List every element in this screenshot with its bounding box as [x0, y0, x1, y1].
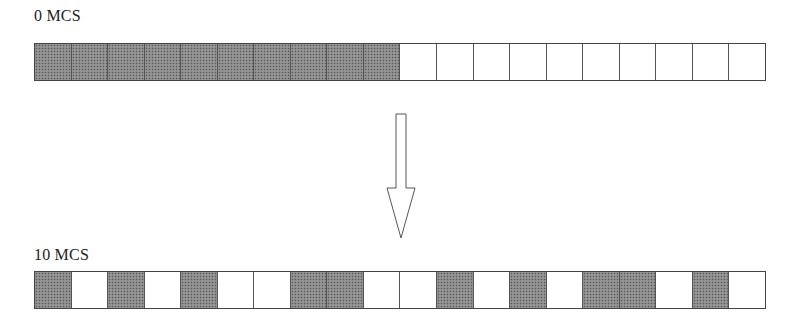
lattice-cell-filled: [364, 44, 401, 80]
lattice-cell-empty: [729, 44, 765, 80]
lattice-cell-empty: [254, 272, 291, 308]
lattice-cell-filled: [218, 44, 255, 80]
lattice-cell-filled: [145, 44, 182, 80]
lattice-cell-filled: [181, 272, 218, 308]
lattice-cell-filled: [254, 44, 291, 80]
lattice-cell-filled: [72, 44, 109, 80]
lattice-cell-empty: [656, 44, 693, 80]
lattice-cell-filled: [327, 272, 364, 308]
lattice-cell-filled: [35, 272, 72, 308]
top-label: 0 MCS: [34, 7, 81, 25]
bottom-label: 10 MCS: [34, 246, 89, 264]
lattice-cell-empty: [400, 44, 437, 80]
lattice-cell-empty: [583, 44, 620, 80]
lattice-cell-filled: [108, 44, 145, 80]
lattice-cell-filled: [620, 272, 657, 308]
lattice-cell-empty: [364, 272, 401, 308]
bottom-lattice-row: [34, 271, 766, 309]
lattice-cell-empty: [693, 44, 730, 80]
top-lattice-row: [34, 43, 766, 81]
lattice-cell-filled: [327, 44, 364, 80]
lattice-cell-filled: [693, 272, 730, 308]
lattice-cell-filled: [583, 272, 620, 308]
lattice-cell-empty: [145, 272, 182, 308]
lattice-cell-filled: [291, 272, 328, 308]
lattice-cell-empty: [400, 272, 437, 308]
lattice-cell-filled: [35, 44, 72, 80]
down-arrow-icon: [380, 108, 424, 242]
lattice-cell-empty: [510, 44, 547, 80]
lattice-cell-empty: [547, 44, 584, 80]
lattice-cell-empty: [218, 272, 255, 308]
lattice-cell-empty: [437, 44, 474, 80]
lattice-cell-empty: [474, 272, 511, 308]
lattice-cell-filled: [108, 272, 145, 308]
lattice-cell-empty: [474, 44, 511, 80]
lattice-cell-filled: [291, 44, 328, 80]
lattice-cell-filled: [437, 272, 474, 308]
lattice-cell-empty: [656, 272, 693, 308]
lattice-cell-empty: [729, 272, 765, 308]
lattice-cell-empty: [72, 272, 109, 308]
lattice-cell-filled: [181, 44, 218, 80]
lattice-cell-empty: [620, 44, 657, 80]
lattice-cell-empty: [547, 272, 584, 308]
lattice-cell-filled: [510, 272, 547, 308]
